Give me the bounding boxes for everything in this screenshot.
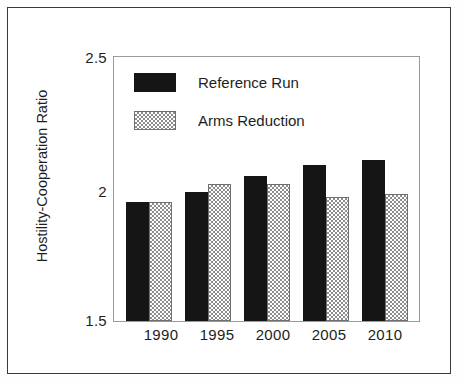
x-tick-label-1995: 1995 bbox=[189, 326, 245, 343]
bar-reference-run-2000 bbox=[244, 176, 267, 321]
legend-label-arms-reduction: Arms Reduction bbox=[198, 112, 305, 129]
chart-legend: Reference Run Arms Reduction bbox=[134, 67, 334, 143]
y-tick-label-1-5: 1.5 bbox=[63, 312, 107, 329]
y-tick-label-2-5: 2.5 bbox=[63, 49, 107, 66]
y-tick-label-2: 2 bbox=[63, 183, 107, 200]
x-tick-label-2000: 2000 bbox=[245, 326, 301, 343]
bar-reference-run-2010 bbox=[362, 160, 385, 321]
x-axis-ticks: 1990 1995 2000 2005 2010 bbox=[113, 326, 420, 350]
legend-entry-reference-run: Reference Run bbox=[134, 67, 334, 97]
bar-arms-reduction-1995 bbox=[208, 184, 231, 321]
legend-swatch-arms-reduction bbox=[134, 111, 176, 130]
bar-arms-reduction-2000 bbox=[267, 184, 290, 321]
bar-arms-reduction-2005 bbox=[326, 197, 349, 321]
x-tick-label-1990: 1990 bbox=[133, 326, 189, 343]
y-axis-ticks: 2.5 2 1.5 bbox=[63, 8, 107, 384]
bar-arms-reduction-1990 bbox=[149, 202, 172, 321]
bar-arms-reduction-2010 bbox=[385, 194, 408, 321]
bar-reference-run-1990 bbox=[126, 202, 149, 321]
legend-label-reference-run: Reference Run bbox=[198, 74, 299, 91]
figure-canvas: 2.5 2 1.5 Hostility-Cooperation Ratio bbox=[0, 0, 458, 384]
legend-entry-arms-reduction: Arms Reduction bbox=[134, 105, 334, 135]
x-tick-label-2005: 2005 bbox=[301, 326, 357, 343]
plot-area: Reference Run Arms Reduction bbox=[113, 56, 420, 322]
x-tick-label-2010: 2010 bbox=[357, 326, 413, 343]
figure-outer-border: 2.5 2 1.5 Hostility-Cooperation Ratio bbox=[7, 7, 451, 374]
bar-reference-run-2005 bbox=[303, 165, 326, 321]
y-axis-title: Hostility-Cooperation Ratio bbox=[34, 81, 50, 271]
legend-swatch-reference-run bbox=[134, 73, 176, 92]
bar-reference-run-1995 bbox=[185, 192, 208, 321]
